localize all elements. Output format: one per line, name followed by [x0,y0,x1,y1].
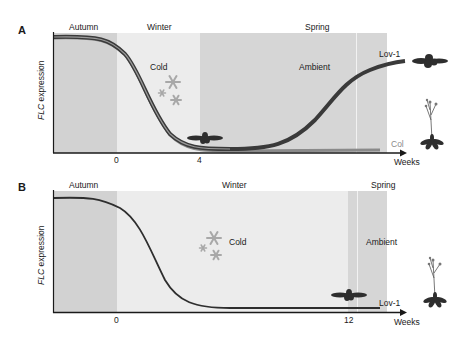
x-tick-label: 0 [114,316,119,325]
condition-label-ambient: Ambient [299,63,330,72]
series-label-lov1: Lov-1 [379,299,400,308]
panel-letter: A [18,24,26,36]
series-label-lov1: Lov-1 [379,50,400,59]
y-axis-label: FLC expression [36,225,46,285]
panel-a: A FLC expression Autumn Winter Spring Co… [0,0,466,170]
panel-b-figure [0,170,466,341]
x-axis-label: Weeks [394,158,420,167]
season-label-spring: Spring [371,181,396,190]
spring-region [200,33,356,153]
season-label-spring: Spring [305,23,330,32]
panel-letter: B [18,181,26,193]
condition-label-ambient: Ambient [366,238,397,247]
season-label-autumn: Autumn [69,23,98,32]
season-label-winter: Winter [222,181,247,190]
x-tick-label: 0 [114,156,119,165]
y-axis-label: FLC expression [36,60,46,120]
x-tick-label: 12 [344,316,353,325]
condition-label-cold: Cold [229,238,246,247]
season-label-autumn: Autumn [69,181,98,190]
series-label-col: Col [391,140,404,149]
x-tick-label: 4 [197,156,202,165]
panel-b: B FLC expression Autumn Winter Spring Co… [0,170,466,341]
autumn-region [54,191,117,313]
x-axis-arrow-icon [400,150,407,157]
rosette-plant-icon [412,54,448,68]
season-label-winter: Winter [147,23,172,32]
flowering-plant-icon [420,99,445,151]
x-axis-arrow-icon [400,309,407,316]
autumn-region [54,33,117,153]
condition-label-cold: Cold [150,63,167,72]
flowering-plant-icon [423,257,448,309]
x-axis-label: Weeks [394,318,420,327]
